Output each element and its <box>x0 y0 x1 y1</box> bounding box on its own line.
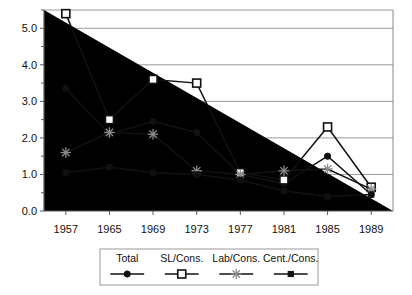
axis-lines <box>44 10 393 211</box>
y-axis-ticks: 0.01.02.03.04.05.0 <box>22 10 44 217</box>
legend-item-labcons[interactable]: Lab/Cons. <box>212 252 260 279</box>
chart-legend: TotalSL/Cons.Lab/Cons.Cent./Cons. <box>100 249 318 285</box>
data-point-marker-open-square <box>193 79 201 87</box>
legend-item-centcons[interactable]: Cent./Cons. <box>263 252 318 277</box>
data-point-marker-star <box>61 147 71 157</box>
x-axis-tick-label: 1989 <box>359 223 383 235</box>
data-point-marker-small-filled-square <box>325 194 330 199</box>
legend-item-slcons[interactable]: SL/Cons. <box>160 252 203 278</box>
data-point-marker-filled-circle <box>194 129 200 135</box>
legend-item-total[interactable]: Total <box>110 252 144 277</box>
y-axis-tick-label: 1.0 <box>22 168 37 180</box>
data-point-marker-small-filled-square <box>288 271 293 276</box>
data-point-marker-filled-circle <box>324 153 330 159</box>
data-point-marker-filled-circle <box>124 271 130 277</box>
y-axis-tick-label: 0.0 <box>22 205 37 217</box>
line-chart: 0.01.02.03.04.05.0 195719651969197319771… <box>0 0 412 295</box>
x-axis-tick-label: 1957 <box>54 223 78 235</box>
x-axis-tick-label: 1977 <box>228 223 252 235</box>
x-axis-tick-label: 1973 <box>184 223 208 235</box>
chart-container: 0.01.02.03.04.05.0 195719651969197319771… <box>0 0 412 295</box>
x-axis-tick-label: 1969 <box>141 223 165 235</box>
data-point-marker-star <box>231 269 241 279</box>
data-point-marker-star <box>104 127 114 137</box>
y-axis-tick-label: 3.0 <box>22 95 37 107</box>
legend-label: Lab/Cons. <box>212 252 260 264</box>
data-point-marker-filled-circle <box>150 118 156 124</box>
y-axis-tick-label: 5.0 <box>22 22 37 34</box>
x-axis-tick-label: 1965 <box>97 223 121 235</box>
data-point-marker-star <box>322 164 332 174</box>
data-point-marker-open-square <box>105 116 113 124</box>
data-point-marker-open-square <box>62 10 70 18</box>
y-axis-tick-label: 4.0 <box>22 59 37 71</box>
data-point-marker-small-filled-square <box>107 165 112 170</box>
data-point-marker-star <box>279 166 289 176</box>
legend-label: Cent./Cons. <box>263 252 318 264</box>
x-axis-tick-label: 1981 <box>272 223 296 235</box>
data-point-marker-small-filled-square <box>238 177 243 182</box>
legend-label: Total <box>116 252 138 264</box>
plot-frame <box>44 10 393 211</box>
data-point-marker-open-square <box>178 270 186 278</box>
x-axis-tick-label: 1985 <box>315 223 339 235</box>
legend-label: SL/Cons. <box>160 252 203 264</box>
y-axis-tick-label: 2.0 <box>22 132 37 144</box>
data-point-marker-open-square <box>149 75 157 83</box>
data-point-marker-star <box>148 129 158 139</box>
data-point-marker-open-square <box>324 123 332 131</box>
data-point-marker-small-filled-square <box>281 188 286 193</box>
data-point-marker-filled-circle <box>63 85 69 91</box>
data-point-marker-small-filled-square <box>63 170 68 175</box>
x-axis-ticks: 19571965196919731977198119851989 <box>54 211 384 235</box>
data-point-marker-small-filled-square <box>369 192 374 197</box>
data-point-marker-open-square <box>280 176 288 184</box>
data-point-marker-small-filled-square <box>150 170 155 175</box>
data-point-marker-small-filled-square <box>194 172 199 177</box>
